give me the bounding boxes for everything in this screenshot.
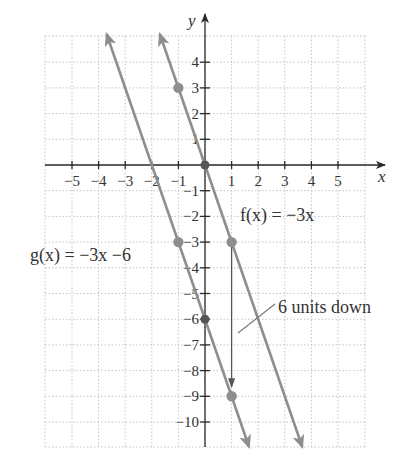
x-tick-label: −3 xyxy=(117,173,133,189)
f-function-label: f(x) = −3x xyxy=(240,205,314,226)
x-axis-label: x xyxy=(377,167,386,186)
y-tick-label: −9 xyxy=(183,388,199,404)
annotation-leader-line xyxy=(238,304,275,333)
y-tick-label: −3 xyxy=(183,234,199,250)
y-tick-label: −1 xyxy=(183,183,199,199)
y-tick-label: 4 xyxy=(192,54,200,70)
g-data-point xyxy=(173,237,183,247)
g-data-point xyxy=(201,315,210,324)
f-data-point xyxy=(226,237,236,247)
y-axis-label: y xyxy=(186,11,196,30)
x-tick-label: 3 xyxy=(281,173,289,189)
x-tick-label: 4 xyxy=(308,173,316,189)
shift-annotation-label: 6 units down xyxy=(278,297,371,317)
y-tick-label: 3 xyxy=(192,80,200,96)
y-tick-label: −6 xyxy=(183,311,199,327)
x-tick-label: −4 xyxy=(91,173,107,189)
x-tick-label: 1 xyxy=(228,173,236,189)
y-tick-label: −10 xyxy=(176,414,199,430)
x-tick-label: −5 xyxy=(64,173,80,189)
axes xyxy=(45,14,385,447)
y-tick-label: −7 xyxy=(183,337,199,353)
f-data-point xyxy=(201,161,210,170)
f-data-point xyxy=(173,83,183,93)
g-function-label: g(x) = −3x −6 xyxy=(30,245,131,266)
y-tick-label: −2 xyxy=(183,208,199,224)
coordinate-plane: −5−4−3−2−1123454321−1−2−3−4−5−6−7−8−9−10… xyxy=(0,0,413,473)
x-tick-label: 2 xyxy=(254,173,262,189)
x-tick-label: 5 xyxy=(334,173,342,189)
y-tick-label: 2 xyxy=(192,106,200,122)
g-data-point xyxy=(226,391,236,401)
y-tick-label: −8 xyxy=(183,363,199,379)
